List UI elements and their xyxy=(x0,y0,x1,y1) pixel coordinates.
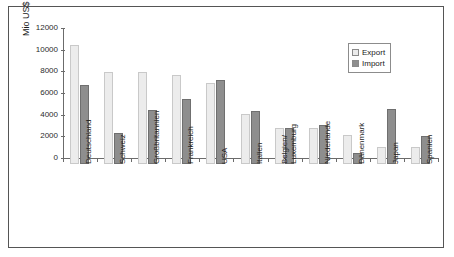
x-tick xyxy=(438,158,439,162)
bar-export xyxy=(206,83,215,164)
y-tick-label: 4000 xyxy=(40,111,58,119)
x-axis-label: Dänenmark xyxy=(357,123,366,164)
chart-frame: Mio US$ 020004000600080001000012000 Deut… xyxy=(8,6,444,248)
bar-export xyxy=(172,75,181,164)
legend-swatch-import-icon xyxy=(352,60,359,67)
bar-export xyxy=(343,135,352,164)
chart-legend: Export Import xyxy=(348,43,391,73)
bar-export xyxy=(104,72,113,164)
x-axis-label: Großbritannien xyxy=(152,111,161,164)
bar-export xyxy=(411,147,420,164)
x-tick xyxy=(97,158,98,162)
bar-export xyxy=(377,147,386,164)
bar-export xyxy=(70,45,79,164)
x-axis-label: Niederlande xyxy=(323,121,332,164)
y-tick xyxy=(61,93,65,94)
bar-group xyxy=(206,34,226,164)
x-tick xyxy=(302,158,303,162)
y-tick-label: 6000 xyxy=(40,89,58,97)
x-axis-label: Spanien xyxy=(425,135,434,164)
bar-export xyxy=(241,114,250,164)
x-tick xyxy=(404,158,405,162)
legend-swatch-export-icon xyxy=(352,49,359,56)
x-tick xyxy=(165,158,166,162)
y-tick xyxy=(61,50,65,51)
x-tick xyxy=(268,158,269,162)
y-tick-label: 10000 xyxy=(36,46,58,54)
x-tick xyxy=(336,158,337,162)
x-tick xyxy=(233,158,234,162)
y-tick xyxy=(61,28,65,29)
x-tick xyxy=(63,158,64,162)
x-axis-label: Belgien/Luxemburg xyxy=(280,124,298,164)
y-tick-label: 2000 xyxy=(40,132,58,140)
x-axis-label: Japan xyxy=(391,142,400,164)
legend-item-export: Export xyxy=(352,47,385,58)
bar-export xyxy=(138,72,147,164)
x-axis-label: Schweiz xyxy=(118,134,127,164)
y-tick xyxy=(61,136,65,137)
y-tick xyxy=(61,115,65,116)
y-tick-label: 12000 xyxy=(36,24,58,32)
x-axis-label: Deutschland xyxy=(84,120,93,164)
y-tick-label: 8000 xyxy=(40,67,58,75)
y-axis-title: Mio US$ xyxy=(21,1,31,36)
x-axis-label: Italien xyxy=(255,143,264,164)
y-tick-label: 0 xyxy=(54,154,58,162)
y-tick xyxy=(61,71,65,72)
legend-label-export: Export xyxy=(362,49,385,57)
bar-export xyxy=(309,128,318,164)
x-tick xyxy=(370,158,371,162)
legend-item-import: Import xyxy=(352,58,385,69)
legend-label-import: Import xyxy=(362,60,385,68)
x-axis-label: Frankreich xyxy=(186,126,195,164)
x-tick xyxy=(199,158,200,162)
x-tick xyxy=(131,158,132,162)
x-axis-label: USA xyxy=(220,148,229,164)
